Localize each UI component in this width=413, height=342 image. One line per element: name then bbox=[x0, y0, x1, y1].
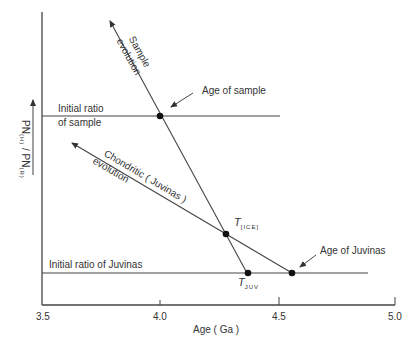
chondritic-evolution-label: Chondritic ( Juvinas ) evolution bbox=[91, 145, 189, 216]
point-t-juv bbox=[245, 270, 252, 277]
point-t-ice bbox=[223, 231, 230, 238]
initial-ratio-sample-label-2: of sample bbox=[58, 117, 102, 128]
x-axis-label: Age ( Ga ) bbox=[193, 324, 239, 335]
sample-evolution-label: Sample evolution bbox=[114, 31, 154, 77]
age-of-juvinas-arrow bbox=[300, 255, 316, 267]
age-of-sample-arrow bbox=[171, 93, 193, 107]
x-tick-label-4-0: 4.0 bbox=[153, 311, 167, 322]
x-tick-label-3-5: 3.5 bbox=[36, 311, 50, 322]
point-age-of-juvinas bbox=[289, 270, 296, 277]
y-axis-label: PN(H) / PN(R) bbox=[19, 120, 31, 179]
x-tick-label-5-0: 5.0 bbox=[388, 311, 402, 322]
initial-ratio-juvinas-label: Initial ratio of Juvinas bbox=[49, 259, 142, 270]
t-ice-label: T[ICE] bbox=[234, 216, 259, 230]
point-age-of-sample bbox=[157, 113, 164, 120]
initial-ratio-sample-label-1: Initial ratio bbox=[58, 103, 104, 114]
svg-text:PN(H) / PN(R): PN(H) / PN(R) bbox=[19, 120, 31, 179]
age-of-juvinas-label: Age of Juvinas bbox=[320, 245, 386, 256]
diagram-canvas: 3.5 4.0 4.5 5.0 Age ( Ga ) PN(H) / PN(R)… bbox=[0, 0, 413, 342]
x-tick-label-4-5: 4.5 bbox=[272, 311, 286, 322]
age-of-sample-label: Age of sample bbox=[202, 85, 266, 96]
t-juv-label: TJUV bbox=[238, 276, 259, 290]
